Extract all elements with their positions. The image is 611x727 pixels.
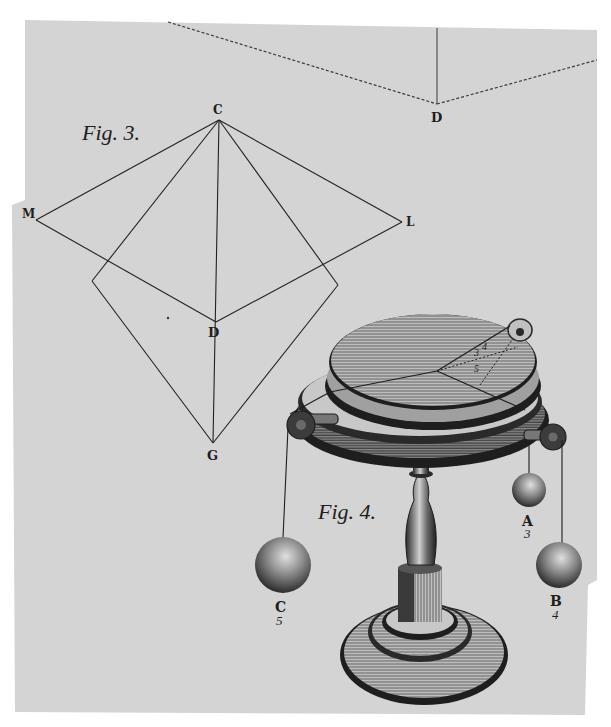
engraving-canvas: D Fig. 3. C M L D G: [0, 0, 611, 727]
weight-B-ball: [536, 542, 582, 588]
fig3-point-C: C: [213, 103, 223, 117]
fig3-point-M: M: [22, 207, 35, 221]
engraving-plate: D Fig. 3. C M L D G: [0, 0, 611, 727]
fig3-point-G: G: [207, 448, 218, 463]
top-point-D-label: D: [431, 110, 442, 125]
weight-A-ball: [512, 473, 546, 507]
table-number-4: 4: [482, 341, 487, 352]
weight-C-number: 5: [276, 613, 283, 628]
table-number-3: 3: [473, 347, 479, 358]
fig3-point-D: D: [208, 325, 219, 340]
fig4-caption: Fig. 4.: [317, 499, 376, 524]
fig3-point-L: L: [406, 215, 415, 229]
weight-C-ball: [255, 537, 311, 593]
weight-A-number: 3: [523, 526, 531, 541]
ink-speck: [167, 317, 169, 319]
weight-B-number: 4: [552, 607, 559, 622]
fig3-caption: Fig. 3.: [81, 120, 140, 145]
table-number-5: 5: [474, 363, 479, 374]
